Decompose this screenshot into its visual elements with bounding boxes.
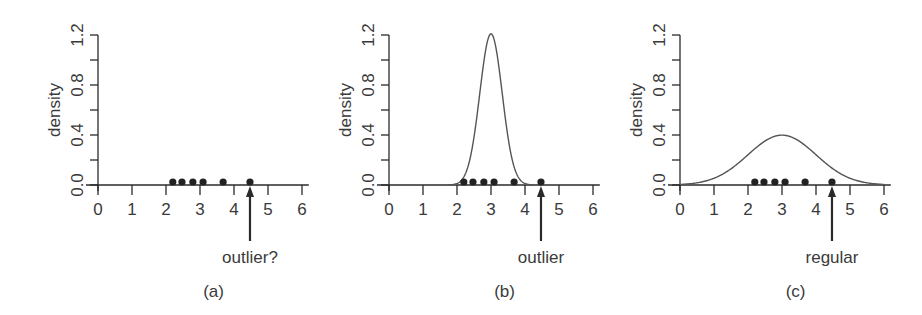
y-tick-label: 0.4 xyxy=(650,123,669,147)
panel-caption: (a) xyxy=(203,282,224,301)
x-tick-label: 0 xyxy=(675,200,684,219)
annotation-label: regular xyxy=(806,248,859,267)
data-point xyxy=(199,178,206,185)
y-tick-label: 0.8 xyxy=(359,73,378,97)
panel-c: 0.00.40.81.2density0123456regular(c) xyxy=(627,23,891,301)
x-tick-label: 1 xyxy=(127,200,136,219)
y-tick-label: 0.4 xyxy=(68,123,87,147)
x-tick-label: 2 xyxy=(452,200,461,219)
y-tick-label: 0.8 xyxy=(68,73,87,97)
data-point xyxy=(469,178,476,185)
x-tick-label: 5 xyxy=(263,200,272,219)
y-axis-label: density xyxy=(45,83,64,137)
annotation-arrow-head xyxy=(828,186,836,197)
data-point xyxy=(751,178,758,185)
panel-caption: (c) xyxy=(786,282,806,301)
data-point xyxy=(537,178,544,185)
data-point xyxy=(169,178,176,185)
y-tick-label: 1.2 xyxy=(68,23,87,47)
panel-caption: (b) xyxy=(494,282,515,301)
panel-a: 0.00.40.81.2density0123456outlier?(a) xyxy=(45,23,309,301)
annotation-label: outlier xyxy=(518,248,565,267)
x-tick-label: 4 xyxy=(520,200,529,219)
x-tick-label: 3 xyxy=(777,200,786,219)
annotation-arrow-head xyxy=(246,186,254,197)
density-curve xyxy=(680,135,884,184)
data-point xyxy=(189,178,196,185)
y-tick-label: 0.0 xyxy=(68,173,87,197)
y-tick-label: 1.2 xyxy=(359,23,378,47)
x-tick-label: 1 xyxy=(418,200,427,219)
data-point xyxy=(771,178,778,185)
y-axis-label: density xyxy=(336,83,355,137)
x-tick-label: 2 xyxy=(743,200,752,219)
y-tick-label: 0.0 xyxy=(359,173,378,197)
data-point xyxy=(220,178,227,185)
panel-b: 0.00.40.81.2density0123456outlier(b) xyxy=(336,23,600,301)
y-tick-label: 0.8 xyxy=(650,73,669,97)
data-point xyxy=(460,178,467,185)
x-tick-label: 4 xyxy=(811,200,820,219)
x-tick-label: 3 xyxy=(486,200,495,219)
data-point xyxy=(511,178,518,185)
annotation-label: outlier? xyxy=(222,248,278,267)
data-point xyxy=(760,178,767,185)
x-tick-label: 5 xyxy=(845,200,854,219)
y-tick-label: 1.2 xyxy=(650,23,669,47)
data-point xyxy=(828,178,835,185)
x-tick-label: 2 xyxy=(161,200,170,219)
data-point xyxy=(178,178,185,185)
y-tick-label: 0.0 xyxy=(650,173,669,197)
x-tick-label: 6 xyxy=(297,200,306,219)
x-tick-label: 6 xyxy=(879,200,888,219)
x-tick-label: 5 xyxy=(554,200,563,219)
x-tick-label: 4 xyxy=(229,200,238,219)
y-tick-label: 0.4 xyxy=(359,123,378,147)
x-tick-label: 6 xyxy=(588,200,597,219)
figure: 0.00.40.81.2density0123456outlier?(a) 0.… xyxy=(0,0,922,315)
data-point xyxy=(480,178,487,185)
x-tick-label: 3 xyxy=(195,200,204,219)
data-point xyxy=(490,178,497,185)
data-point xyxy=(781,178,788,185)
x-tick-label: 0 xyxy=(93,200,102,219)
x-tick-label: 1 xyxy=(709,200,718,219)
y-axis-label: density xyxy=(627,83,646,137)
data-point xyxy=(802,178,809,185)
x-tick-label: 0 xyxy=(384,200,393,219)
annotation-arrow-head xyxy=(537,186,545,197)
data-point xyxy=(246,178,253,185)
density-curve xyxy=(449,34,534,185)
